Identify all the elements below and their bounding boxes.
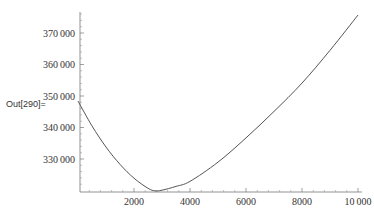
x-tick-label: 8000 — [292, 196, 312, 207]
x-tick-label: 6000 — [236, 196, 256, 207]
x-tick-label: 2000 — [124, 196, 144, 207]
y-tick-label: 350 000 — [43, 91, 75, 102]
y-tick-label: 330 000 — [43, 154, 75, 165]
line-chart: 200040006000800010 000330 000340 000350 … — [0, 0, 374, 209]
y-tick-label: 340 000 — [43, 122, 75, 133]
y-tick-label: 370 000 — [43, 28, 75, 39]
x-tick-label: 10 000 — [344, 196, 371, 207]
data-curve — [78, 15, 358, 191]
y-tick-label: 360 000 — [43, 59, 75, 70]
x-tick-label: 4000 — [180, 196, 200, 207]
